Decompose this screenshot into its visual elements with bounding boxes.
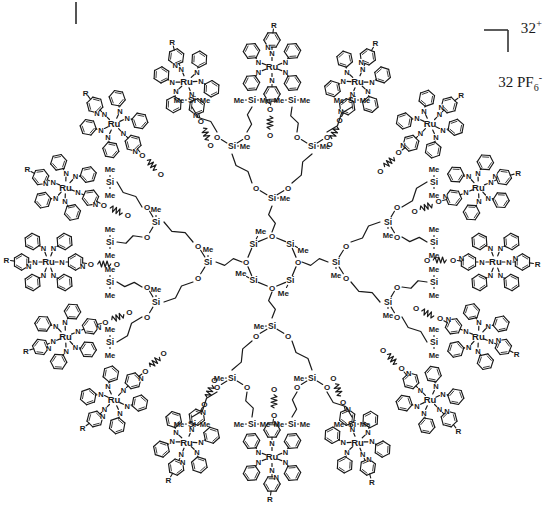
oxygen-atom-label: O [126, 308, 132, 317]
nitrogen-atom-label: N [32, 258, 37, 267]
oxygen-atom-label: O [244, 133, 250, 142]
silicon-atom-label: Si [248, 95, 256, 105]
oxygen-atom-label: O [394, 313, 400, 322]
r-substituent-label: R [23, 347, 29, 356]
oxygen-atom-label: O [142, 367, 148, 376]
oxygen-atom-label: O [343, 274, 349, 283]
oxygen-atom-label: O [436, 197, 442, 206]
silicon-atom-label: Si [430, 337, 438, 347]
methyl-group-label: Me [300, 420, 311, 429]
oxygen-atom-label: O [326, 140, 332, 149]
oxygen-atom-label: O [343, 242, 349, 251]
nitrogen-atom-label: N [121, 386, 126, 395]
ru-metal-center-label: Ru [59, 331, 72, 342]
silicon-atom-label: Si [106, 277, 114, 287]
nitrogen-atom-label: N [506, 258, 511, 267]
oxygen-atom-label: O [267, 131, 273, 140]
silicon-atom-label: Si [308, 141, 316, 151]
ru-complex: NNRNNONNNNRu [154, 400, 220, 485]
dendrimer-branches: SiMeOSiMeOSiMeMeOSiMeMeOSiMeOSiMeMeOSiMe… [105, 95, 440, 429]
silicon-atom-label: Si [268, 193, 276, 203]
nitrogen-atom-label: N [488, 244, 493, 253]
silicon-atom-label: Si [286, 239, 294, 249]
methyl-group-label: Me [105, 251, 116, 260]
nitrogen-atom-label: N [488, 271, 493, 280]
ru-metal-center-label: Ru [180, 76, 193, 87]
r-substituent-label: R [515, 169, 521, 178]
r-substituent-label: R [369, 478, 375, 487]
methyl-group-label: Me [429, 291, 440, 300]
oxygen-atom-label: O [161, 349, 167, 358]
ru-metal-center-label: Ru [108, 394, 121, 405]
oxygen-atom-label: O [195, 274, 201, 283]
ru-complex: NNRNNONNNNRu [80, 366, 149, 434]
silicon-atom-label: Si [250, 239, 258, 249]
ru-complex: NNRNNONNNNRu [24, 155, 106, 221]
nitrogen-atom-label: N [73, 172, 78, 181]
silicon-atom-label: Si [106, 337, 114, 347]
methyl-group-label: Me [278, 289, 290, 298]
charge-sign: + [536, 18, 542, 29]
oxygen-atom-label: O [394, 283, 400, 292]
oxygen-atom-label: O [101, 201, 107, 210]
methyl-group-label: Me [105, 225, 116, 234]
ru-metal-center-label: Ru [266, 451, 279, 462]
silicon-atom-label: Si [228, 141, 236, 151]
nitrogen-atom-label: N [406, 369, 411, 378]
counterion-charge: - [539, 72, 542, 83]
nitrogen-atom-label: N [102, 110, 107, 119]
oxygen-atom-label: O [437, 314, 443, 323]
nitrogen-atom-label: N [366, 455, 371, 464]
methyl-group-label: Me [105, 165, 116, 174]
nitrogen-atom-label: N [102, 405, 107, 414]
nitrogen-atom-label: N [498, 244, 503, 253]
silicon-atom-label: Si [288, 419, 296, 429]
oxygen-atom-label: O [88, 260, 94, 269]
methyl-group-label: Me [334, 420, 345, 429]
oxygen-atom-label: O [450, 256, 456, 265]
nitrogen-atom-label: N [340, 438, 345, 447]
ru-complex: NNRNNONNNNRu [436, 155, 522, 220]
nitrogen-atom-label: N [421, 409, 426, 418]
methyl-group-label: Me [300, 96, 311, 105]
oxygen-atom-label: O [198, 117, 204, 126]
r-substituent-label: R [458, 91, 464, 100]
silicon-atom-label: Si [268, 321, 276, 331]
nitrogen-atom-label: N [479, 258, 484, 267]
nitrogen-atom-label: N [418, 386, 423, 395]
methyl-group-label: Me [235, 269, 247, 278]
methyl-group-label: Me [240, 142, 251, 151]
nitrogen-atom-label: N [117, 409, 122, 418]
oxygen-atom-label: O [139, 151, 145, 160]
nitrogen-atom-label: N [418, 129, 423, 138]
silicon-atom-label: Si [430, 177, 438, 187]
oxygen-atom-label: O [412, 207, 418, 216]
silicon-atom-label: Si [332, 257, 340, 267]
methyl-group-label: Me [280, 194, 291, 203]
methyl-group-label: Me [203, 245, 214, 254]
nitrogen-atom-label: N [121, 129, 126, 138]
methyl-group-label: Me [234, 420, 245, 429]
oxygen-atom-label: O [244, 383, 250, 392]
nitrogen-atom-label: N [75, 188, 80, 197]
nitrogen-atom-label: N [369, 78, 374, 87]
oxygen-atom-label: O [253, 332, 259, 341]
oxygen-atom-label: O [380, 346, 386, 355]
silicon-atom-label: Si [384, 297, 392, 307]
ruthenium-complex-group: NNRNNONNNNRuNNRNNONNNNRuNNRNNONNNNRuNNRN… [3, 21, 540, 504]
nitrogen-atom-label: N [98, 126, 103, 135]
oxygen-atom-label: O [208, 141, 214, 150]
nitrogen-atom-label: N [437, 405, 442, 414]
r-substituent-label: R [169, 38, 175, 47]
nitrogen-atom-label: N [463, 327, 468, 336]
oxygen-atom-label: O [201, 400, 207, 409]
oxygen-atom-label: O [144, 203, 150, 212]
oxygen-atom-label: O [340, 398, 346, 407]
oxygen-atom-label: O [394, 203, 400, 212]
ru-complex: NNRNNONNNNRu [80, 89, 148, 160]
methyl-group-label: Me [234, 96, 245, 105]
oxygen-atom-label: O [158, 170, 164, 179]
nitrogen-atom-label: N [269, 466, 274, 475]
counterion-label: 32 PF6- [498, 72, 542, 93]
oxygen-atom-label: O [398, 364, 404, 373]
